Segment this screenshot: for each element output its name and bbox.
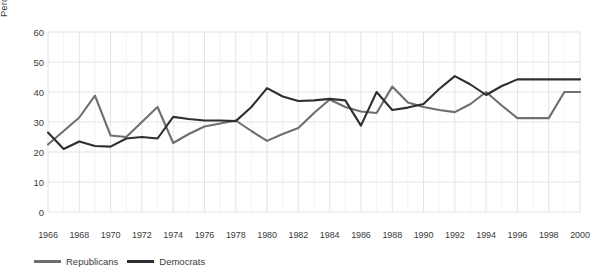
legend-swatch-icon	[34, 260, 61, 263]
x-axis-tick-label: 1984	[320, 230, 340, 240]
x-axis-tick-label: 1986	[351, 230, 371, 240]
x-axis-tick-label: 2000	[570, 230, 590, 240]
legend-label: Democrats	[159, 256, 205, 267]
legend-item[interactable]: Democrats	[127, 256, 205, 267]
legend-item[interactable]: Republicans	[34, 256, 118, 267]
legend-label: Republicans	[66, 256, 118, 267]
x-axis-tick-label: 1978	[226, 230, 246, 240]
x-axis-tick-label: 1994	[476, 230, 496, 240]
x-axis-tick-label: 1982	[289, 230, 309, 240]
x-axis-ticks: 1966196819701972197419761978198019821984…	[0, 230, 600, 246]
x-axis-tick-label: 1990	[414, 230, 434, 240]
x-axis-tick-label: 1976	[195, 230, 215, 240]
x-axis-tick-label: 1980	[257, 230, 277, 240]
x-axis-tick-label: 1966	[38, 230, 58, 240]
x-axis-tick-label: 1970	[101, 230, 121, 240]
x-axis-tick-label: 1996	[508, 230, 528, 240]
x-axis-tick-label: 1974	[163, 230, 183, 240]
x-axis-tick-label: 1968	[69, 230, 89, 240]
chart-legend: RepublicansDemocrats	[34, 256, 205, 267]
x-axis-tick-label: 1998	[539, 230, 559, 240]
x-axis-tick-label: 1992	[445, 230, 465, 240]
x-axis-tick-label: 1988	[382, 230, 402, 240]
legend-swatch-icon	[127, 260, 154, 263]
x-axis-tick-label: 1972	[132, 230, 152, 240]
line-chart: Percent responding 0102030405060 1966196…	[0, 0, 600, 280]
